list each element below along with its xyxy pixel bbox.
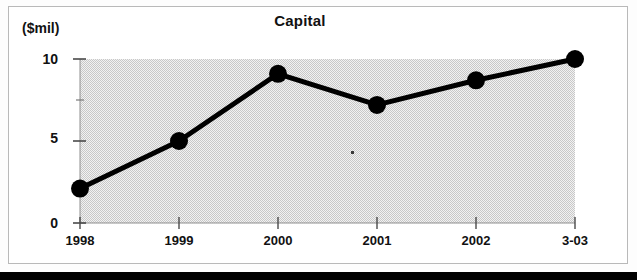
- data-point-2001: [368, 96, 386, 114]
- capital-line-chart: [0, 0, 637, 280]
- data-point-2000: [269, 65, 287, 83]
- data-point-1998: [71, 180, 89, 198]
- data-point-3-03: [566, 50, 584, 68]
- scan-speck-artifact: [351, 151, 354, 154]
- data-point-2002: [467, 71, 485, 89]
- plot-area-background: [80, 59, 575, 223]
- scanned-page: Capital ($mil) 10 5 0 1998 1999 2000 200…: [0, 0, 637, 280]
- data-point-1999: [170, 132, 188, 150]
- page-bottom-rule: [0, 272, 637, 280]
